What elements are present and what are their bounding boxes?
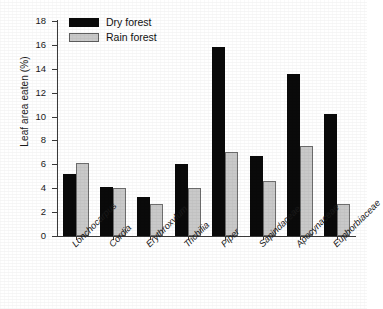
y-tick-label: 14 — [0, 64, 46, 74]
y-tick-label: 0 — [0, 231, 46, 241]
bar-dry-forest — [250, 156, 263, 236]
y-tick-label: 2 — [0, 207, 46, 217]
chart-legend: Dry forest Rain forest — [69, 16, 157, 46]
y-tick-label: 12 — [0, 88, 46, 98]
y-tick-label: 10 — [0, 112, 46, 122]
bar-dry-forest — [63, 174, 76, 236]
bar-dry-forest — [212, 47, 225, 236]
bar-dry-forest — [137, 197, 150, 236]
bar-rain-forest — [225, 152, 238, 236]
legend-swatch-dry-forest — [69, 18, 99, 27]
y-tick-label: 4 — [0, 183, 46, 193]
legend-label-dry-forest: Dry forest — [106, 17, 152, 28]
legend-item-rain-forest: Rain forest — [69, 31, 157, 44]
bar-rain-forest — [300, 146, 313, 236]
legend-label-rain-forest: Rain forest — [106, 32, 157, 43]
y-tick-mark — [52, 236, 57, 237]
bar-dry-forest — [175, 164, 188, 236]
legend-item-dry-forest: Dry forest — [69, 16, 157, 29]
plot-area — [57, 21, 356, 236]
y-tick-label: 6 — [0, 159, 46, 169]
legend-swatch-rain-forest — [69, 33, 99, 42]
y-tick-label: 8 — [0, 135, 46, 145]
y-tick-label: 16 — [0, 40, 46, 50]
y-tick-label: 18 — [0, 16, 46, 26]
